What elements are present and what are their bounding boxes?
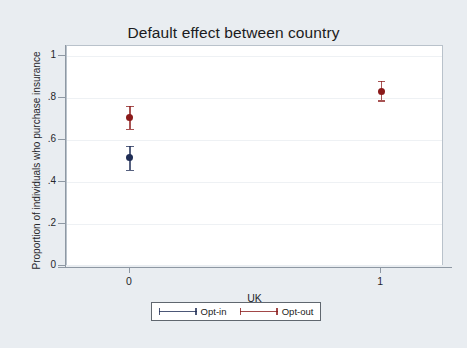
gridline-y-.6 [67,140,442,141]
legend-entry-opt-out[interactable]: Opt-out [240,306,314,317]
legend-label: Opt-out [282,306,314,317]
y-tick-mark-.2 [58,223,65,224]
ci-cap-upper [126,146,134,148]
x-tick-label-1: 1 [360,275,400,287]
chart-legend[interactable]: Opt-inOpt-out [151,302,321,321]
ci-cap-upper [126,106,134,108]
y-tick-mark-1 [58,55,65,56]
gridline-y-.2 [67,224,442,225]
y-axis-title: Proportion of individuals who purchase i… [31,42,42,280]
ci-cap-lower [126,170,134,172]
ci-cap-upper [378,81,386,83]
gridline-y-1 [67,56,442,57]
gridline-y-.8 [67,98,442,99]
y-tick-mark-.8 [58,97,65,98]
legend-entry-opt-in[interactable]: Opt-in [159,306,227,317]
marker-dot [378,88,385,95]
x-tick-mark-1 [380,267,381,273]
legend-label: Opt-in [201,306,227,317]
gridline-y-.4 [67,182,442,183]
y-tick-mark-.4 [58,181,65,182]
x-tick-mark-0 [129,267,130,273]
chart-figure: Default effect between country 0.2.4.6.8… [0,0,467,348]
y-tick-mark-0 [58,265,65,266]
x-axis-line [58,267,452,268]
plot-area [66,45,443,265]
marker-dot [126,154,133,161]
chart-title: Default effect between country [0,24,467,42]
ci-cap-lower [126,129,134,131]
y-axis-line [65,45,66,267]
ci-cap-lower [378,100,386,102]
y-tick-mark-.6 [58,139,65,140]
x-tick-label-0: 0 [109,275,149,287]
legend-symbol-icon [159,307,197,316]
legend-symbol-icon [240,307,278,316]
marker-dot [126,114,133,121]
